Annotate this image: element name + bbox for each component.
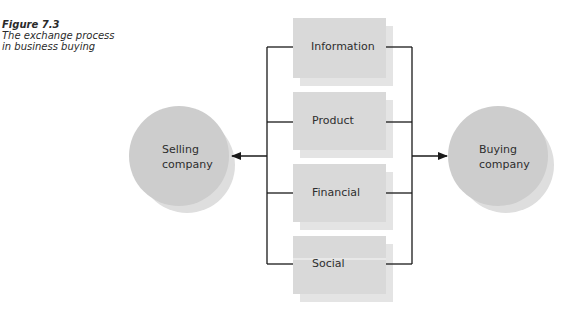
selling-company-label: Selling company (162, 142, 213, 172)
product-label: Product (312, 114, 354, 128)
selling-company-label-line-2: company (162, 157, 213, 172)
buying-company-label-line-2: company (479, 157, 530, 172)
information-label: Information (311, 40, 375, 54)
buying-company-label-line-1: Buying (479, 142, 530, 157)
social-label: Social (312, 257, 345, 271)
financial-label: Financial (312, 186, 360, 200)
buying-company-label: Buying company (479, 142, 530, 172)
selling-company-label-line-1: Selling (162, 142, 213, 157)
left-connector (267, 47, 293, 264)
